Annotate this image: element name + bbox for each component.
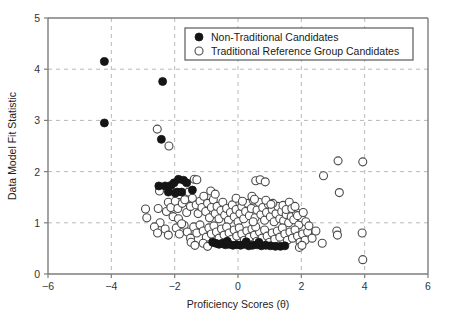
data-point-filled: [164, 188, 172, 196]
legend-marker-filled: [195, 33, 203, 41]
data-point-open: [154, 229, 162, 237]
data-point-open: [291, 202, 299, 210]
data-point-open: [359, 158, 367, 166]
x-axis-title: Proficiency Scores (θ): [187, 298, 290, 310]
data-point-filled: [100, 58, 108, 66]
data-point-filled: [183, 179, 191, 187]
data-point-open: [312, 227, 320, 235]
y-tick-label: 0: [34, 268, 40, 280]
legend-label: Non-Traditional Candidates: [211, 31, 338, 43]
y-tick-label: 3: [34, 114, 40, 126]
data-point-open: [250, 195, 258, 203]
data-point-open: [178, 220, 186, 228]
x-tick-label: −4: [105, 280, 117, 292]
data-point-open: [358, 229, 366, 237]
data-point-open: [334, 157, 342, 165]
data-point-open: [305, 222, 313, 230]
scatter-plot-figure: −6−4−20246012345 Proficiency Scores (θ)D…: [0, 0, 450, 323]
data-point-open: [318, 239, 326, 247]
data-point-open: [267, 200, 275, 208]
data-point-open: [164, 231, 172, 239]
plot-canvas: −6−4−20246012345 Proficiency Scores (θ)D…: [0, 0, 450, 323]
y-tick-label: 4: [34, 63, 40, 75]
data-point-open: [193, 176, 201, 184]
data-point-filled: [188, 186, 196, 194]
legend-marker-open: [195, 47, 203, 55]
data-point-open: [211, 190, 219, 198]
y-tick-label: 1: [34, 217, 40, 229]
x-tick-label: 0: [235, 280, 241, 292]
data-point-filled: [159, 77, 167, 85]
data-point-open: [335, 189, 343, 197]
legend: Non-Traditional CandidatesTraditional Re…: [185, 28, 413, 60]
data-point-open: [154, 204, 162, 212]
data-point-open: [175, 230, 183, 238]
data-point-filled: [255, 238, 263, 246]
x-tick-label: 4: [362, 280, 368, 292]
y-tick-label: 2: [34, 166, 40, 178]
data-point-open: [165, 142, 173, 150]
data-point-filled: [281, 242, 289, 250]
x-tick-label: −2: [169, 280, 181, 292]
y-axis-title: Data Model Fit Statistic: [6, 92, 18, 200]
data-point-filled: [242, 238, 250, 246]
legend-label: Traditional Reference Group Candidates: [211, 45, 399, 57]
data-point-open: [333, 231, 341, 239]
data-point-open: [320, 172, 328, 180]
x-tick-label: 2: [298, 280, 304, 292]
x-tick-label: −6: [42, 280, 54, 292]
data-point-open: [249, 218, 257, 226]
data-point-open: [142, 205, 150, 213]
data-point-open: [359, 256, 367, 264]
data-point-open: [261, 178, 269, 186]
y-tick-label: 5: [34, 12, 40, 24]
data-points: [100, 58, 366, 264]
data-point-open: [153, 125, 161, 133]
data-point-open: [181, 196, 189, 204]
data-point-open: [143, 214, 151, 222]
data-point-filled: [157, 135, 165, 143]
data-point-open: [299, 209, 307, 217]
data-point-filled: [100, 119, 108, 127]
data-point-open: [191, 241, 199, 249]
data-point-open: [238, 197, 246, 205]
data-point-filled: [223, 237, 231, 245]
data-point-open: [298, 241, 306, 249]
x-tick-label: 6: [425, 280, 431, 292]
